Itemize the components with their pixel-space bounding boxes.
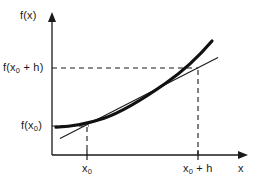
derivative-secant-figure: f(x) f(x0 + h) f(x0) x0 x0 + h x — [0, 0, 265, 184]
subscript-zero: 0 — [189, 167, 193, 176]
guide-lines-group — [52, 68, 198, 155]
y-value-label-lower: f(x0) — [21, 120, 42, 131]
y-axis-arrow-icon — [48, 12, 56, 22]
x-tick-label-left: x0 — [82, 163, 92, 174]
subscript-zero: 0 — [34, 124, 38, 133]
subscript-zero: 0 — [16, 66, 20, 75]
x-tick-label-right: x0 + h — [183, 163, 213, 174]
y-value-label-upper: f(x0 + h) — [3, 62, 44, 73]
figure-canvas — [0, 0, 265, 184]
subscript-zero: 0 — [88, 167, 92, 176]
x-axis-arrow-icon — [238, 151, 248, 159]
x-axis-group — [52, 151, 248, 159]
y-axis-label: f(x) — [20, 10, 37, 21]
x-axis-label: x — [238, 163, 244, 174]
function-curve — [56, 41, 212, 127]
y-axis-group — [48, 12, 56, 155]
secant-line — [60, 58, 218, 139]
